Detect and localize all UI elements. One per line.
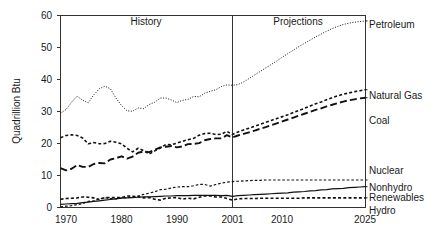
energy-consumption-line-chart: 60 50 40 30 20 10 0 Quadrillion Btu 1970…	[0, 0, 447, 246]
y-tick-label-20: 20	[41, 138, 53, 149]
series-label-nuclear: Nuclear	[369, 165, 404, 176]
chart-container: 60 50 40 30 20 10 0 Quadrillion Btu 1970…	[0, 0, 447, 246]
x-tick-label-1970: 1970	[55, 214, 78, 225]
y-tick-label-0: 0	[46, 202, 52, 213]
y-tick-label-60: 60	[41, 10, 53, 21]
series-label-hydro: Hydro	[369, 205, 396, 216]
y-tick-label-10: 10	[41, 170, 53, 181]
x-tick-label-2001: 2001	[221, 214, 244, 225]
y-tick-label-50: 50	[41, 42, 53, 53]
history-label: History	[130, 16, 161, 27]
x-tick-label-2010: 2010	[271, 214, 294, 225]
x-tick-label-1990: 1990	[166, 214, 189, 225]
series-label-coal: Coal	[369, 115, 390, 126]
y-axis-title: Quadrillion Btu	[11, 78, 22, 144]
projections-label: Projections	[273, 16, 322, 27]
y-tick-label-40: 40	[41, 74, 53, 85]
series-label-natural-gas: Natural Gas	[369, 90, 422, 101]
y-tick-label-30: 30	[41, 106, 53, 117]
series-label-petroleum: Petroleum	[369, 19, 415, 30]
x-tick-label-1980: 1980	[110, 214, 133, 225]
series-label-renewables: Renewables	[369, 192, 424, 203]
